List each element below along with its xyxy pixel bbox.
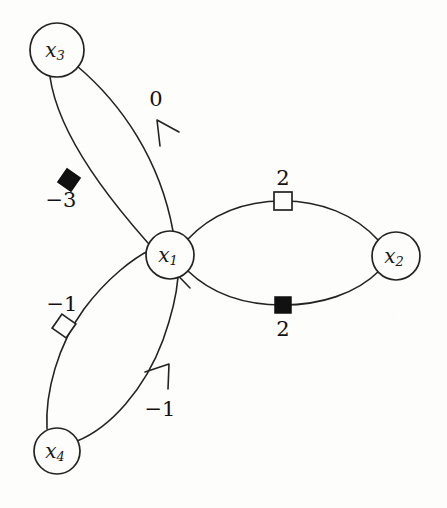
node-group: x3 x1 x2 x4	[30, 23, 420, 474]
marker-filled-square-two-lower	[275, 297, 291, 313]
node-x4[interactable]: x4	[34, 428, 80, 474]
graph-figure: x3 x1 x2 x4	[0, 0, 447, 508]
arrowhead-zero-edge	[157, 120, 179, 146]
edge-label-two-upper: 2	[276, 166, 289, 190]
edge-label-two-lower: 2	[276, 317, 289, 341]
edge-x4-x1-upper	[47, 250, 150, 429]
marker-open-square-minus-one	[52, 314, 76, 338]
edge-label-zero: 0	[149, 87, 162, 111]
node-x3[interactable]: x3	[30, 23, 84, 77]
marker-open-square-two-upper	[274, 192, 292, 210]
arrowhead-minus-one-edge	[145, 364, 169, 389]
edge-label-minus-one-upper: −1	[47, 292, 78, 316]
edge-label-minus-one-lower: −1	[145, 397, 176, 421]
graph-canvas: x3 x1 x2 x4	[0, 0, 447, 508]
edge-label-minus-three: −3	[46, 188, 77, 212]
edge-group	[47, 66, 379, 441]
node-x1[interactable]: x1	[146, 231, 194, 279]
node-x2[interactable]: x2	[372, 232, 420, 280]
